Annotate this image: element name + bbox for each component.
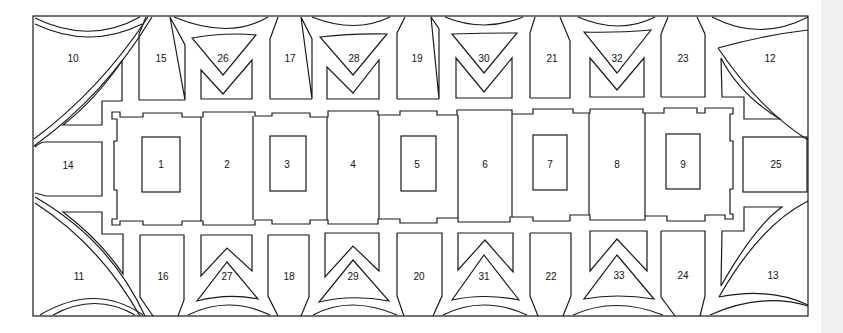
- parcel-label-5: 5: [414, 159, 420, 170]
- plan-drawing: [0, 0, 843, 333]
- parcel-label-26: 26: [217, 53, 228, 64]
- parcel-label-3: 3: [284, 159, 290, 170]
- parcel-label-16: 16: [157, 271, 168, 282]
- parcel-label-28: 28: [348, 53, 359, 64]
- parcel-label-33: 33: [613, 270, 624, 281]
- parcel-label-29: 29: [347, 271, 358, 282]
- parcel-label-23: 23: [677, 53, 688, 64]
- parcel-label-30: 30: [478, 53, 489, 64]
- corner-parcel-10: [34, 17, 152, 146]
- parcel-label-4: 4: [350, 159, 356, 170]
- parcel-label-20: 20: [413, 271, 424, 282]
- parcel-label-24: 24: [677, 270, 688, 281]
- parcel-label-27: 27: [221, 271, 232, 282]
- parcel-label-14: 14: [62, 160, 73, 171]
- parcel-label-32: 32: [611, 53, 622, 64]
- parcel-label-9: 9: [680, 159, 686, 170]
- parcel-label-18: 18: [283, 271, 294, 282]
- parcel-label-7: 7: [547, 159, 553, 170]
- parcel-label-10: 10: [67, 53, 78, 64]
- site-plan-diagram: 1 2 3 4 5 6 7 8 9 10 11 12 13 14 25 15 2…: [0, 0, 843, 333]
- parcel-label-19: 19: [411, 53, 422, 64]
- parcel-label-15: 15: [155, 53, 166, 64]
- parcel-label-8: 8: [614, 159, 620, 170]
- parcel-label-21: 21: [546, 53, 557, 64]
- parcel-label-17: 17: [284, 53, 295, 64]
- parcel-label-6: 6: [482, 159, 488, 170]
- page-edge-shadow: [821, 0, 843, 333]
- parcel-label-31: 31: [478, 271, 489, 282]
- bottom-row-triangles: [197, 231, 654, 302]
- central-block: [112, 108, 733, 225]
- parcel-label-12: 12: [764, 53, 775, 64]
- parcel-label-25: 25: [770, 159, 781, 170]
- parcel-label-11: 11: [74, 271, 84, 282]
- corner-parcel-13: [719, 201, 808, 305]
- parcel-label-22: 22: [545, 271, 556, 282]
- parcel-label-1: 1: [158, 159, 164, 170]
- parcel-label-2: 2: [224, 159, 230, 170]
- top-row-triangles: [192, 30, 651, 99]
- parcel-label-13: 13: [767, 270, 778, 281]
- bottom-arcs: [40, 299, 808, 316]
- corner-parcel-12: [718, 30, 808, 140]
